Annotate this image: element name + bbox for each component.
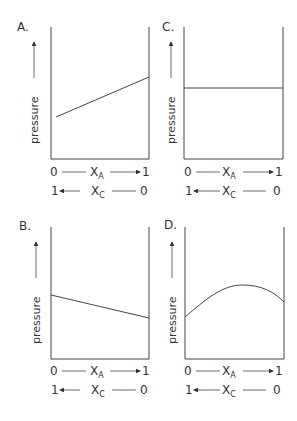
xc-variable: XC — [222, 184, 236, 200]
xc-end-label: 0 — [140, 383, 148, 397]
panel-d-y-axis-label: pressure — [166, 296, 179, 344]
panel-a-y-axis-label: pressure — [28, 96, 41, 144]
xc-variable: XC — [91, 184, 105, 200]
xa-start-label: 0 — [50, 165, 58, 179]
xc-start-label: 1 — [185, 383, 193, 397]
xa-end-label: 1 — [275, 165, 283, 179]
xa-variable: XA — [90, 165, 104, 181]
panel-d-label: D. — [164, 218, 177, 232]
xc-variable: XC — [222, 383, 236, 399]
panel-c-label: C. — [162, 20, 174, 34]
xc-end-label: 0 — [140, 184, 148, 198]
xc-end-label: 0 — [273, 184, 281, 198]
xc-start-label: 1 — [51, 383, 59, 397]
xa-start-label: 0 — [50, 364, 58, 378]
panel-d-curve — [185, 285, 284, 317]
panel-c-y-axis-label: pressure — [165, 96, 178, 144]
panel-b-y-axis-label: pressure — [30, 296, 43, 344]
xa-variable: XA — [222, 165, 236, 181]
panel-b-curve — [51, 295, 149, 318]
xa-start-label: 0 — [184, 165, 192, 179]
xa-start-label: 0 — [184, 364, 192, 378]
xa-end-label: 1 — [142, 165, 150, 179]
xc-end-label: 0 — [273, 383, 281, 397]
panel-a-label: A. — [17, 20, 29, 34]
xc-start-label: 1 — [51, 184, 59, 198]
xa-variable: XA — [222, 364, 236, 380]
xa-end-label: 1 — [142, 364, 150, 378]
xa-end-label: 1 — [275, 364, 283, 378]
diagram-canvas — [0, 0, 297, 421]
xc-start-label: 1 — [185, 184, 193, 198]
panel-b-label: B. — [19, 219, 31, 233]
xa-variable: XA — [90, 364, 104, 380]
xc-variable: XC — [91, 383, 105, 399]
panel-a-curve — [56, 77, 149, 117]
